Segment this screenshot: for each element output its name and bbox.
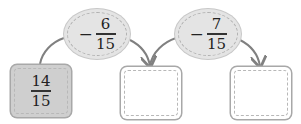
minus-sign: −	[78, 24, 92, 44]
fraction-7-15: 7 15	[207, 16, 227, 51]
arrow-op1-to-box1	[130, 40, 150, 66]
denominator: 15	[207, 36, 226, 52]
numerator: 14	[31, 73, 50, 89]
fraction-14-15: 14 15	[31, 73, 51, 108]
fraction-6-15: 6 15	[96, 16, 116, 51]
operation-bubble-1: − 6 15	[64, 9, 130, 59]
arrow-op2-to-box2	[240, 40, 260, 66]
answer-box-2[interactable]	[231, 67, 291, 119]
denominator: 15	[31, 93, 50, 109]
connector-box1-to-op2	[150, 38, 176, 66]
minus-sign: −	[189, 24, 203, 44]
numerator: 6	[101, 16, 111, 32]
numerator: 7	[212, 16, 222, 32]
operation-bubble-2: − 7 15	[175, 9, 241, 59]
start-value-box: 14 15	[11, 65, 71, 117]
denominator: 15	[96, 36, 115, 52]
connector-start-to-op1	[40, 38, 64, 64]
answer-box-1[interactable]	[121, 67, 181, 119]
